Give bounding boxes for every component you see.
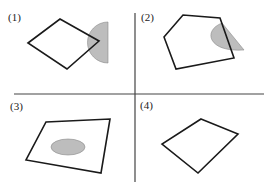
panel-4-quadrilateral: [162, 119, 238, 173]
panel-1-label: (1): [8, 11, 21, 24]
panel-2-label: (2): [141, 11, 154, 24]
panel-3: (3): [10, 100, 110, 173]
panel-4-label: (4): [140, 99, 153, 112]
four-panel-diagram: (1) (2) (3) (4): [0, 0, 270, 189]
panel-4: (4): [140, 99, 238, 173]
panel-2-half-disk: [211, 23, 244, 50]
panel-2: (2): [141, 11, 244, 69]
panel-3-ellipse: [51, 139, 85, 155]
panel-1: (1): [8, 11, 108, 69]
panel-3-label: (3): [10, 100, 23, 113]
